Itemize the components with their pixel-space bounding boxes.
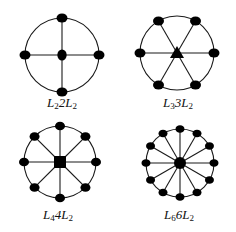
outer-node bbox=[193, 130, 202, 138]
outer-node bbox=[159, 130, 168, 138]
label-subscript: 2 bbox=[68, 213, 73, 223]
outer-node bbox=[57, 14, 68, 23]
outer-node bbox=[176, 193, 185, 201]
outer-node bbox=[135, 49, 146, 58]
label-subscript: 2 bbox=[72, 101, 77, 111]
outer-node bbox=[190, 81, 201, 90]
outer-node bbox=[142, 159, 151, 167]
label-subscript: 2 bbox=[189, 213, 194, 223]
label-subscript: 2 bbox=[188, 101, 193, 111]
outer-node bbox=[55, 194, 65, 203]
label-mid: 2L bbox=[59, 95, 73, 110]
outer-node bbox=[153, 81, 164, 90]
outer-node bbox=[94, 51, 105, 60]
outer-node bbox=[205, 176, 214, 184]
outer-node bbox=[20, 51, 31, 60]
spoke-edge bbox=[177, 21, 196, 53]
outer-node bbox=[153, 16, 164, 25]
diagram-L2-2L2 bbox=[20, 14, 105, 97]
center-node-square bbox=[54, 156, 66, 168]
outer-node bbox=[30, 183, 40, 192]
wheel-graphs-canvas bbox=[0, 0, 236, 232]
diagram-label-L3-3L2: L33L2 bbox=[163, 96, 193, 111]
label-mid: 4L bbox=[55, 207, 69, 222]
label-mid: 3L bbox=[175, 95, 189, 110]
center-node-triangle bbox=[170, 46, 184, 58]
outer-node bbox=[205, 142, 214, 150]
center-node-circle bbox=[174, 157, 186, 169]
diagram-label-L4-4L2: L44L2 bbox=[43, 208, 73, 223]
outer-node bbox=[91, 158, 101, 167]
diagram-label-L2-2L2: L22L2 bbox=[47, 96, 77, 111]
outer-node bbox=[210, 159, 219, 167]
outer-node bbox=[209, 49, 220, 58]
outer-node bbox=[30, 132, 40, 141]
outer-node bbox=[80, 183, 90, 192]
label-mid: 6L bbox=[176, 207, 190, 222]
outer-node bbox=[146, 142, 155, 150]
outer-node bbox=[80, 132, 90, 141]
figure: L22L2 L33L2 L44L2 L66L2 bbox=[0, 0, 236, 232]
spoke-edge bbox=[159, 21, 178, 53]
outer-node bbox=[176, 125, 185, 133]
diagram-L6-6L2 bbox=[142, 125, 219, 201]
outer-node bbox=[19, 158, 29, 167]
outer-node bbox=[193, 189, 202, 197]
diagram-label-L6-6L2: L66L2 bbox=[164, 208, 194, 223]
diagram-L4-4L2 bbox=[19, 122, 101, 203]
center-node-ellipse bbox=[57, 50, 66, 61]
outer-node bbox=[146, 176, 155, 184]
outer-node bbox=[55, 122, 65, 131]
outer-node bbox=[190, 16, 201, 25]
diagram-L3-3L2 bbox=[135, 16, 220, 90]
outer-node bbox=[159, 189, 168, 197]
